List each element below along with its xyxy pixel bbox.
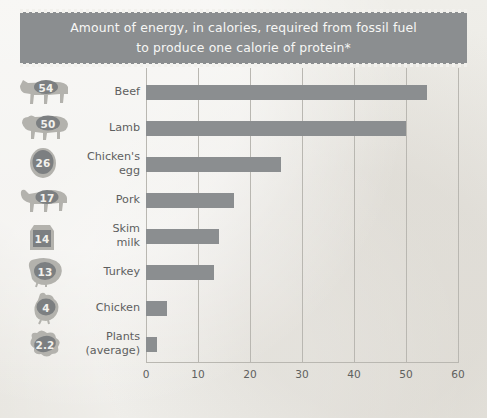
pig-icon: 17 xyxy=(16,182,82,218)
x-axis-tick-label: 40 xyxy=(339,368,369,380)
category-label: Plants(average) xyxy=(80,326,140,362)
chart-row: 50Lamb xyxy=(0,110,487,146)
category-label-line: Skim xyxy=(112,222,140,236)
category-label-line: Chicken's xyxy=(87,150,140,164)
category-label-line: Plants xyxy=(106,330,140,344)
chart-row: 26Chicken'segg xyxy=(0,146,487,182)
chart-row: 17Pork xyxy=(0,182,487,218)
category-label-line: egg xyxy=(119,164,140,178)
category-label: Skimmilk xyxy=(80,218,140,254)
title-dotted-border-bottom xyxy=(20,63,467,67)
chart-title-line-1: Amount of energy, in calories, required … xyxy=(70,18,417,38)
chart-title-banner: Amount of energy, in calories, required … xyxy=(20,12,467,64)
x-axis-tick-label: 0 xyxy=(131,368,161,380)
x-axis-tick-label: 30 xyxy=(287,368,317,380)
chart-figure: Amount of energy, in calories, required … xyxy=(0,0,487,418)
x-axis-line xyxy=(146,362,459,363)
category-label: Chicken'segg xyxy=(80,146,140,182)
x-axis-tick-label: 10 xyxy=(183,368,213,380)
title-dotted-border-top xyxy=(20,9,467,13)
category-label-line: Pork xyxy=(116,193,140,207)
category-label-line: Turkey xyxy=(104,265,140,279)
category-label: Lamb xyxy=(80,110,140,146)
plants-icon: 2.2 xyxy=(16,326,82,362)
chart-row: 14Skimmilk xyxy=(0,218,487,254)
icon-value-badge: 4 xyxy=(34,302,58,314)
chart-row: 54Beef xyxy=(0,74,487,110)
cow-icon: 54 xyxy=(16,74,82,110)
milk-carton-icon: 14 xyxy=(16,218,82,254)
category-label: Chicken xyxy=(80,290,140,326)
x-axis-tick-label: 50 xyxy=(391,368,421,380)
sheep-icon: 50 xyxy=(16,110,82,146)
icon-value-badge: 26 xyxy=(31,157,55,169)
egg-icon: 26 xyxy=(16,146,82,182)
chart-row: 13Turkey xyxy=(0,254,487,290)
icon-value-badge: 14 xyxy=(30,233,54,245)
category-label-line: Chicken xyxy=(96,301,140,315)
chart-title-line-2: to produce one calorie of protein* xyxy=(136,38,350,58)
category-label-line: Lamb xyxy=(109,121,140,135)
chart-body: 0102030405060 54Beef50Lamb26Chicken'segg… xyxy=(0,74,487,374)
icon-value-badge: 50 xyxy=(36,118,60,130)
icon-value-badge: 13 xyxy=(33,266,57,278)
icon-value-badge: 54 xyxy=(34,82,58,94)
icon-value-badge: 17 xyxy=(35,192,59,204)
category-label-line: (average) xyxy=(85,344,140,358)
category-label-line: Beef xyxy=(115,85,140,99)
turkey-icon: 13 xyxy=(16,254,82,290)
category-label: Turkey xyxy=(80,254,140,290)
category-label: Beef xyxy=(80,74,140,110)
chart-row: 2.2Plants(average) xyxy=(0,326,487,362)
chicken-icon: 4 xyxy=(16,290,82,326)
x-axis-tick-label: 20 xyxy=(235,368,265,380)
chart-row: 4Chicken xyxy=(0,290,487,326)
category-label: Pork xyxy=(80,182,140,218)
icon-value-badge: 2.2 xyxy=(33,339,57,351)
category-label-line: milk xyxy=(116,236,140,250)
x-axis-tick-label: 60 xyxy=(443,368,473,380)
